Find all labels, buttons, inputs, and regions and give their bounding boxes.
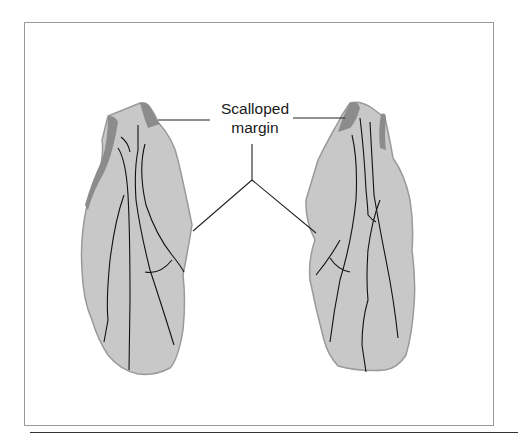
wings-diagram	[0, 0, 518, 438]
label-line-1: Scalloped	[205, 99, 305, 118]
label-line-2: margin	[205, 118, 305, 137]
left-wing	[82, 102, 193, 374]
scalloped-margin-label: Scalloped margin	[205, 99, 305, 137]
callout-left-branch	[193, 180, 252, 231]
right-scalloped-margin-inner	[379, 114, 386, 151]
right-wing	[306, 102, 415, 372]
left-wing-body	[82, 103, 193, 374]
right-wing-body	[306, 102, 415, 370]
